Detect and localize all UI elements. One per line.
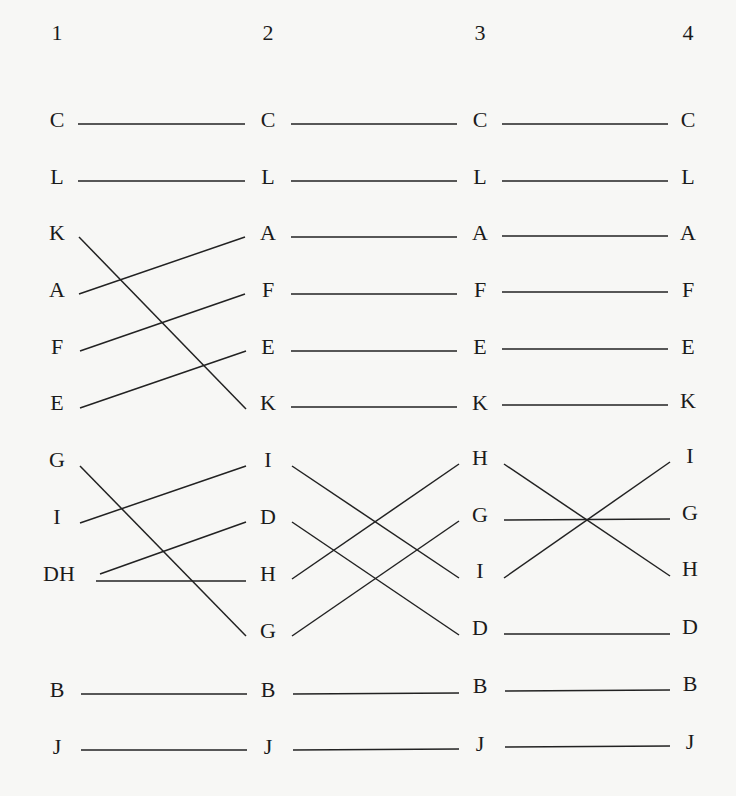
- col3-label: G: [472, 502, 488, 527]
- col1-label: G: [49, 447, 65, 472]
- col1-label: C: [50, 107, 65, 132]
- column-headers: 1 2 3 4: [52, 20, 694, 45]
- column-2-labels: C L A F E K I D H G B J: [260, 107, 276, 759]
- col4-label: B: [683, 671, 698, 696]
- col3-label: J: [476, 731, 485, 756]
- column-header-2: 2: [263, 20, 274, 45]
- column-header-1: 1: [52, 20, 63, 45]
- col1-label: B: [50, 677, 65, 702]
- connector-line: [80, 466, 246, 523]
- col2-label: H: [260, 561, 276, 586]
- col2-label: C: [261, 107, 276, 132]
- col4-label: G: [682, 500, 698, 525]
- connector-line: [293, 693, 459, 694]
- col2-label: J: [264, 734, 273, 759]
- col4-label: I: [686, 443, 693, 468]
- col4-label: C: [681, 107, 696, 132]
- col3-label: I: [476, 558, 483, 583]
- col1-label: E: [50, 390, 63, 415]
- col3-label: K: [472, 390, 488, 415]
- col3-label: B: [473, 673, 488, 698]
- col1-label: DH: [43, 561, 75, 586]
- col3-label: D: [472, 615, 488, 640]
- col4-label: D: [682, 614, 698, 639]
- col2-label: F: [262, 277, 274, 302]
- connections-1-to-2: [78, 124, 247, 750]
- column-4-labels: C L A F E K I G H D B J: [680, 107, 698, 754]
- col4-label: L: [681, 164, 694, 189]
- crossing-diagram: 1 2 3 4 C L K A F E G I DH B J C L A F E…: [0, 0, 736, 796]
- connector-line: [505, 690, 670, 691]
- column-header-3: 3: [475, 20, 486, 45]
- col2-label: L: [261, 164, 274, 189]
- col3-label: E: [473, 334, 486, 359]
- connections-3-to-4: [502, 124, 670, 747]
- column-1-labels: C L K A F E G I DH B J: [43, 107, 75, 759]
- col1-label: I: [53, 504, 60, 529]
- connections-2-to-3: [291, 124, 459, 750]
- col1-label: A: [49, 277, 65, 302]
- col1-label: L: [50, 164, 63, 189]
- connector-line: [80, 351, 246, 408]
- col3-label: H: [472, 445, 488, 470]
- connector-line: [505, 746, 670, 747]
- col1-label: F: [51, 334, 63, 359]
- col4-label: F: [682, 277, 694, 302]
- col2-label: A: [260, 220, 276, 245]
- col2-label: I: [264, 447, 271, 472]
- col3-label: F: [474, 277, 486, 302]
- col2-label: E: [261, 334, 274, 359]
- col3-label: L: [473, 164, 486, 189]
- col4-label: E: [681, 334, 694, 359]
- col4-label: A: [680, 220, 696, 245]
- connector-line: [100, 522, 246, 574]
- connector-line: [293, 749, 459, 750]
- col4-label: H: [682, 556, 698, 581]
- col2-label: K: [260, 390, 276, 415]
- column-3-labels: C L A F E K H G I D B J: [472, 107, 488, 756]
- column-header-4: 4: [683, 20, 694, 45]
- col2-label: D: [260, 504, 276, 529]
- col4-label: K: [680, 388, 696, 413]
- col4-label: J: [686, 729, 695, 754]
- col1-label: J: [53, 734, 62, 759]
- connector-line: [80, 294, 245, 351]
- col2-label: G: [260, 618, 276, 643]
- col3-label: A: [472, 220, 488, 245]
- col1-label: K: [49, 220, 65, 245]
- connector-line: [79, 237, 245, 294]
- col3-label: C: [473, 107, 488, 132]
- col2-label: B: [261, 677, 276, 702]
